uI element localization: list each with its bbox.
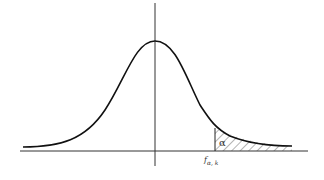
critical-value-label: fα, k (204, 156, 218, 166)
alpha-label: α (219, 138, 226, 148)
critical-value-subscript: α, k (207, 159, 219, 166)
density-diagram (0, 0, 324, 180)
shaded-tail (215, 125, 295, 152)
density-curve (23, 41, 292, 147)
